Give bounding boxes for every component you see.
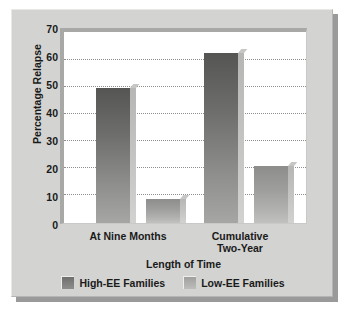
y-tick-label: 30 [18,136,58,147]
plot-area [64,32,306,223]
legend-label: Low-EE Families [201,277,284,289]
legend-swatch-icon [61,276,74,289]
x-tick-line: Two-Year [180,242,300,254]
bar-side-shadow [288,166,294,223]
legend-item-low-ee: Low-EE Families [183,276,284,289]
chart-panel: Percentage Relapse 70 60 50 40 30 20 10 … [11,9,333,297]
bar-top-bevel [288,162,297,166]
bar-face [254,166,288,223]
bar-low-ee-cumulative-two-year [254,166,288,223]
chart-legend: High-EE Families Low-EE Families [42,276,304,289]
legend-item-high-ee: High-EE Families [61,276,165,289]
bar-face [96,88,130,223]
y-tick-label: 50 [18,80,58,91]
y-tick-label: 40 [18,108,58,119]
bar-top-bevel [238,49,247,53]
bar-face [146,199,180,223]
y-tick-label: 20 [18,164,58,175]
x-axis-title: Length of Time [60,258,307,270]
gridline [64,59,306,60]
bar-face [204,53,238,223]
chart-figure: Percentage Relapse 70 60 50 40 30 20 10 … [0,0,344,309]
y-tick-label: 60 [18,52,58,63]
gridline [64,86,306,87]
legend-label: High-EE Families [79,277,165,289]
bar-side-shadow [238,53,244,223]
y-tick-label: 0 [18,220,58,231]
bar-low-ee-at-nine-months [146,199,180,223]
bar-high-ee-cumulative-two-year [204,53,238,223]
x-tick-label-group-2: Cumulative Two-Year [180,230,300,254]
y-axis-ticks: 70 60 50 40 30 20 10 0 [16,28,58,224]
bar-high-ee-at-nine-months [96,88,130,223]
y-tick-label: 70 [18,24,58,35]
bar-top-bevel [180,195,189,199]
plot-frame [60,28,307,224]
y-tick-label: 10 [18,192,58,203]
bar-side-shadow [180,199,186,223]
x-tick-label-group-1: At Nine Months [68,230,188,242]
legend-swatch-icon [183,276,196,289]
bar-side-shadow [130,88,136,223]
x-tick-line: Cumulative [180,230,300,242]
x-tick-line: At Nine Months [68,230,188,242]
